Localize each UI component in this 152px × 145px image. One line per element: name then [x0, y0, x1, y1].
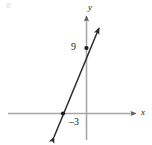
x-intercept-label: –3 — [69, 117, 79, 127]
data-point-y-intercept — [84, 46, 88, 50]
y-axis-label: y — [88, 3, 92, 12]
data-point-x-intercept — [61, 111, 65, 115]
graph-figure: y x 9 –3 — [0, 0, 152, 145]
y-intercept-label: 9 — [71, 42, 76, 52]
x-axis-label: x — [141, 108, 145, 117]
